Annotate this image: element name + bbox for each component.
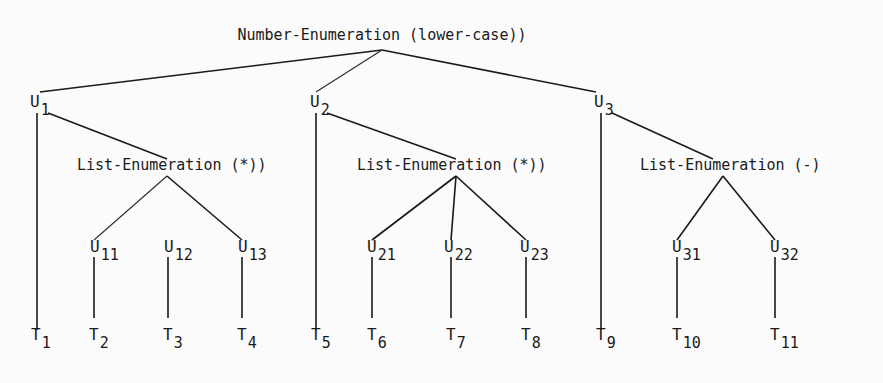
- terminal-t9: T9: [596, 325, 616, 352]
- node-u1: U1: [30, 92, 50, 119]
- tree-edges: [37, 50, 775, 330]
- node-u23: U23: [520, 237, 549, 264]
- terminal-t5: T5: [311, 325, 331, 352]
- terminal-t3: T3: [163, 325, 183, 352]
- edge-list-to-u21: [372, 176, 456, 240]
- terminal-t11: T11: [770, 325, 799, 352]
- enumeration-tree-diagram: Number-Enumeration (lower-case)) U1U2U3T…: [0, 0, 883, 383]
- list-enumeration-node-3: List-Enumeration (-): [640, 156, 821, 174]
- node-u3: U3: [594, 92, 614, 119]
- edge-list-to-u11: [94, 176, 167, 240]
- terminal-t8: T8: [521, 325, 541, 352]
- edge-list-to-u23: [456, 176, 526, 240]
- edge-list-to-u22: [451, 176, 456, 240]
- node-u22: U22: [444, 237, 473, 264]
- terminal-t6: T6: [367, 325, 387, 352]
- edge-u3-to-list: [612, 113, 713, 159]
- list-enumeration-node-1: List-Enumeration (*)): [77, 156, 267, 174]
- terminal-t10: T10: [672, 325, 701, 352]
- root-node-number-enumeration: Number-Enumeration (lower-case)): [238, 26, 527, 44]
- edge-root-to-u3: [382, 50, 596, 92]
- edge-list-to-u32: [723, 176, 775, 240]
- terminal-t7: T7: [446, 325, 466, 352]
- edge-u2-to-list: [327, 113, 456, 159]
- terminal-t4: T4: [237, 325, 257, 352]
- edge-list-to-u31: [677, 176, 723, 240]
- list-enumeration-node-2: List-Enumeration (*)): [357, 156, 547, 174]
- tree-labels: Number-Enumeration (lower-case)) U1U2U3T…: [30, 26, 821, 352]
- node-u2: U2: [310, 92, 330, 119]
- edge-u1-to-list: [48, 113, 167, 159]
- terminal-t2: T2: [89, 325, 109, 352]
- terminal-t1: T1: [31, 325, 51, 352]
- edge-root-to-u1: [40, 50, 382, 92]
- edge-list-to-u13: [167, 176, 242, 240]
